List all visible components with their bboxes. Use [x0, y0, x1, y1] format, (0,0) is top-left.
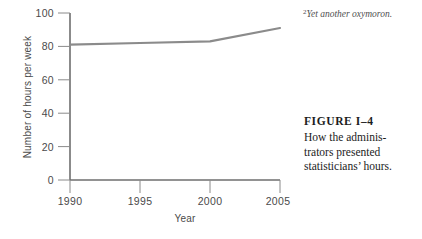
- footnote-text: Yet another oxymoron.: [307, 9, 393, 19]
- data-line-hours-per-week: [70, 28, 280, 45]
- y-tick-label-60: 60: [42, 74, 54, 86]
- x-tick-label-1995: 1995: [128, 195, 153, 207]
- figure-caption-line-2: trators presented: [304, 145, 420, 160]
- x-tick-label-2005: 2005: [266, 195, 291, 207]
- y-tick-label-0: 0: [48, 174, 54, 186]
- y-tick-label-20: 20: [42, 141, 54, 153]
- y-axis-title: Number of hours per week: [22, 35, 33, 158]
- figure-caption-title: FIGURE I–4: [304, 115, 420, 127]
- x-axis-title: Year: [174, 213, 195, 224]
- figure-caption: FIGURE I–4 How the adminis- trators pres…: [304, 115, 420, 174]
- x-tick-label-1990: 1990: [58, 195, 83, 207]
- x-tick-label-2000: 2000: [198, 195, 223, 207]
- figure-caption-body: How the adminis- trators presented stati…: [304, 130, 420, 174]
- line-chart: 100 80 60 40 20 0 1990 1995 2000 2005 Ye…: [0, 0, 300, 239]
- footnote: 2Yet another oxymoron.: [303, 6, 421, 20]
- y-tick-label-80: 80: [42, 40, 54, 52]
- y-tick-label-100: 100: [36, 7, 54, 19]
- figure-caption-line-1: How the adminis-: [304, 130, 420, 145]
- figure-caption-line-3: statisticians’ hours.: [304, 159, 420, 174]
- y-tick-label-40: 40: [42, 107, 54, 119]
- figure-page: 100 80 60 40 20 0 1990 1995 2000 2005 Ye…: [0, 0, 422, 239]
- chart-figure: 100 80 60 40 20 0 1990 1995 2000 2005 Ye…: [0, 0, 300, 239]
